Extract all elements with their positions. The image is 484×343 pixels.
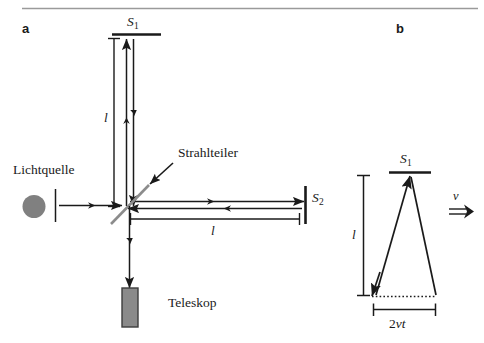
panel-letter-a: a bbox=[22, 22, 29, 35]
label-mirror-s1-letter: S bbox=[127, 14, 134, 29]
label-mirror-s2-letter: S bbox=[312, 190, 319, 205]
beam-splitter-pointer bbox=[150, 163, 173, 184]
panel-b-label-base-prefix: 2 bbox=[389, 316, 396, 331]
panel-b-label-base-symbol: vt bbox=[396, 316, 406, 331]
telescope-body bbox=[122, 288, 138, 327]
label-arm-horizontal-length: l bbox=[211, 224, 215, 238]
panel-b-label-velocity: v bbox=[453, 190, 459, 203]
panel-letter-b: b bbox=[396, 22, 404, 35]
panel-b-label-mirror-s1: S1 bbox=[400, 152, 412, 166]
panel-b-label-mirror-s1-subscript: 1 bbox=[407, 158, 412, 168]
label-mirror-s2-subscript: 2 bbox=[319, 197, 324, 207]
beam-to-telescope-midarrow bbox=[126, 238, 133, 246]
panel-b-path-down bbox=[411, 177, 436, 295]
light-source-lamp bbox=[23, 195, 46, 218]
label-beam-splitter: Strahlteiler bbox=[178, 146, 238, 160]
velocity-double-arrow bbox=[449, 205, 474, 219]
beam-vertical-down-midarrow bbox=[130, 110, 137, 118]
label-telescope: Teleskop bbox=[168, 296, 217, 310]
label-mirror-s1-subscript: 1 bbox=[134, 21, 139, 31]
label-arm-vertical-length: l bbox=[104, 111, 108, 125]
label-mirror-s1: S1 bbox=[127, 15, 139, 29]
panel-b-label-mirror-s1-letter: S bbox=[400, 151, 407, 166]
panel-b-label-base: 2vt bbox=[389, 317, 406, 331]
label-mirror-s2: S2 bbox=[312, 191, 324, 205]
figure-michelson-interferometer: a b S1 S2 Strahlteiler Lichtquelle Teles… bbox=[0, 0, 484, 343]
panel-b-path-up bbox=[376, 176, 410, 295]
panel-b-label-height: l bbox=[352, 228, 356, 242]
label-light-source: Lichtquelle bbox=[13, 163, 74, 177]
